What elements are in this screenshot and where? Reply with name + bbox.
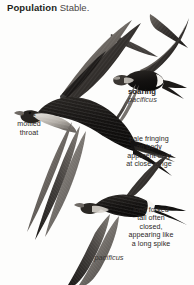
annotation-pale-fringing: pale fringing on body apparent only at c…: [108, 135, 190, 169]
tail-line-3: closed,: [140, 223, 163, 231]
population-value: Stable.: [60, 2, 90, 13]
fringing-line-4: at close range: [126, 160, 171, 168]
annotation-long-forked-tail: long forked tail often closed, appearing…: [112, 206, 190, 248]
tail-line-5: a long spike: [132, 240, 170, 248]
throat-line-1: pale: [22, 112, 36, 120]
fringing-line-3: apparent only: [127, 152, 171, 160]
tail-line-2: tail often: [137, 214, 164, 222]
soaring-species-name: pacificus: [128, 96, 190, 104]
annotation-soaring: soaring pacificus: [128, 88, 190, 105]
throat-line-3: throat: [20, 129, 38, 137]
population-label: Population: [7, 2, 57, 13]
throat-line-2: mottled: [17, 120, 41, 128]
fringing-line-1: pale fringing: [129, 135, 168, 143]
population-status-line: Population Stable.: [7, 2, 89, 14]
fringing-line-2: on body: [136, 143, 162, 151]
tail-line-4: appearing like: [129, 231, 174, 239]
annotation-species-name-bottom: pacificus: [78, 254, 140, 262]
illustration-plate: Population Stable.: [0, 0, 194, 285]
annotation-pale-mottled-throat: pale mottled throat: [6, 112, 52, 137]
tail-line-1: long forked: [133, 206, 169, 214]
